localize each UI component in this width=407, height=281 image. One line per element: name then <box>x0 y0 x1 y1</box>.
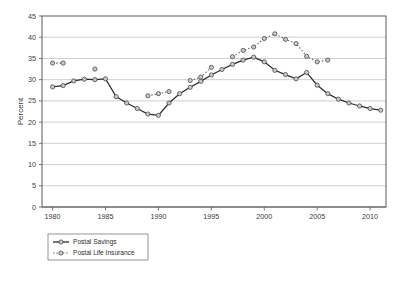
x-tick-label: 2005 <box>309 212 325 221</box>
line-chart: 051015202530354045 198019851990199520002… <box>0 0 407 281</box>
data-point-marker <box>93 78 97 82</box>
data-point-marker <box>82 77 86 81</box>
data-point-marker <box>61 84 65 88</box>
chart-legend: Postal SavingsPostal Life Insurance <box>48 234 148 260</box>
data-point-marker <box>347 101 351 105</box>
legend-marker-icon <box>59 240 63 244</box>
x-tick-label: 1990 <box>150 212 166 221</box>
data-point-marker <box>230 55 234 59</box>
chart-container: 051015202530354045 198019851990199520002… <box>0 0 407 281</box>
data-point-marker <box>326 58 330 62</box>
data-point-marker <box>283 37 287 41</box>
data-point-marker <box>262 36 266 40</box>
x-tick-label: 2010 <box>362 212 378 221</box>
data-point-marker <box>146 112 150 116</box>
x-tick-label: 1980 <box>45 212 61 221</box>
legend-label: Postal Savings <box>73 238 117 246</box>
data-point-marker <box>178 92 182 96</box>
y-tick-label: 25 <box>28 96 36 105</box>
y-axis-title: Percent <box>16 97 25 125</box>
data-point-marker <box>305 54 309 58</box>
data-point-marker <box>252 45 256 49</box>
data-point-marker <box>103 77 107 81</box>
data-point-marker <box>230 62 234 66</box>
data-point-marker <box>273 32 277 36</box>
data-point-marker <box>167 89 171 93</box>
data-point-marker <box>294 77 298 81</box>
data-point-marker <box>273 68 277 72</box>
x-tick-label: 1985 <box>98 212 114 221</box>
y-tick-label: 10 <box>28 160 36 169</box>
data-point-marker <box>283 72 287 76</box>
data-point-marker <box>368 106 372 110</box>
data-point-marker <box>315 83 319 87</box>
y-tick-label: 5 <box>32 181 36 190</box>
data-point-marker <box>315 60 319 64</box>
data-point-marker <box>156 92 160 96</box>
data-point-marker <box>61 61 65 65</box>
data-point-marker <box>188 78 192 82</box>
y-tick-label: 0 <box>32 203 36 212</box>
data-point-marker <box>50 85 54 89</box>
legend-marker-icon <box>59 251 63 255</box>
data-point-marker <box>326 92 330 96</box>
data-point-marker <box>209 73 213 77</box>
data-point-marker <box>305 70 309 74</box>
data-point-marker <box>252 55 256 59</box>
data-point-marker <box>241 58 245 62</box>
y-tick-label: 15 <box>28 139 36 148</box>
data-point-marker <box>379 108 383 112</box>
data-point-marker <box>294 41 298 45</box>
data-point-marker <box>93 67 97 71</box>
data-point-marker <box>357 104 361 108</box>
data-point-marker <box>199 75 203 79</box>
data-point-marker <box>50 61 54 65</box>
data-point-marker <box>336 97 340 101</box>
legend-label: Postal Life Insurance <box>73 249 135 256</box>
data-point-marker <box>241 48 245 52</box>
y-tick-label: 35 <box>28 54 36 63</box>
y-tick-label: 45 <box>28 12 36 21</box>
data-point-marker <box>209 65 213 69</box>
y-tick-label: 40 <box>28 33 36 42</box>
data-point-marker <box>156 113 160 117</box>
x-tick-label: 2000 <box>256 212 272 221</box>
data-point-marker <box>220 67 224 71</box>
x-tick-label: 1995 <box>203 212 219 221</box>
data-point-marker <box>262 60 266 64</box>
data-point-marker <box>72 79 76 83</box>
y-tick-label: 30 <box>28 75 36 84</box>
data-point-marker <box>125 101 129 105</box>
data-point-marker <box>146 94 150 98</box>
data-point-marker <box>188 85 192 89</box>
y-tick-label: 20 <box>28 118 36 127</box>
data-point-marker <box>199 79 203 83</box>
data-point-marker <box>114 95 118 99</box>
data-point-marker <box>135 106 139 110</box>
data-point-marker <box>167 101 171 105</box>
